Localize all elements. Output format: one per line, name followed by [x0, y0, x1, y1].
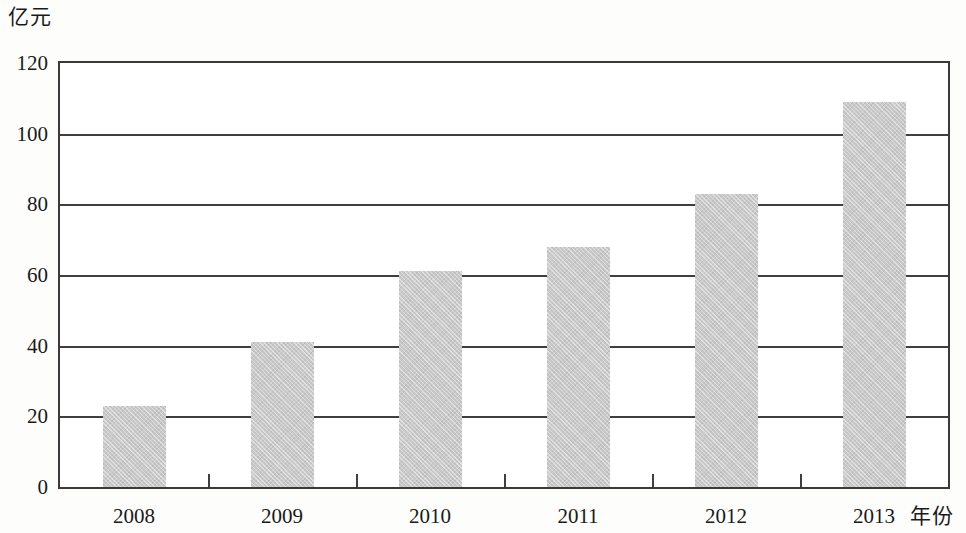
x-axis-tick-mark — [652, 474, 654, 487]
x-axis-title: 年份 — [910, 505, 954, 527]
gridline — [60, 416, 948, 418]
plot-area: 020406080100120 — [58, 61, 950, 489]
y-axis-unit-label: 亿元 — [8, 4, 52, 30]
gridline — [60, 134, 948, 136]
x-axis-tick-label-2009: 2009 — [212, 505, 352, 527]
bar-2008 — [103, 406, 166, 487]
bar-chart-screenshot: 亿元 020406080100120 200820092010201120122… — [0, 0, 966, 533]
bar-2013 — [843, 102, 906, 487]
plot-inner: 020406080100120 — [60, 63, 948, 487]
x-axis-tick-label-2012: 2012 — [656, 505, 796, 527]
bar-2009 — [251, 342, 314, 487]
x-axis-tick-mark — [800, 474, 802, 487]
x-axis-tick-mark — [504, 474, 506, 487]
x-axis-tick-mark — [208, 474, 210, 487]
bar-2011 — [547, 247, 610, 487]
x-axis-tick-label-2008: 2008 — [64, 505, 204, 527]
gridline — [60, 346, 948, 348]
gridline — [60, 275, 948, 277]
x-axis-tick-mark — [356, 474, 358, 487]
x-axis-tick-label-2010: 2010 — [360, 505, 500, 527]
x-axis-tick-label-2011: 2011 — [508, 505, 648, 527]
bar-2010 — [399, 271, 462, 487]
bar-2012 — [695, 194, 758, 487]
gridline — [60, 204, 948, 206]
